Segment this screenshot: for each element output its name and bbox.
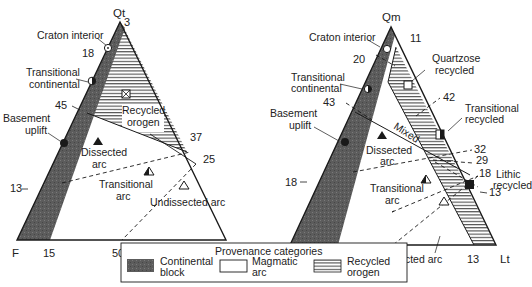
svg-text:block: block bbox=[160, 266, 185, 278]
label-craton-interior: Craton interior bbox=[37, 29, 104, 41]
tick-13: 13 bbox=[10, 182, 22, 194]
undissected-arc-marker bbox=[439, 197, 449, 205]
transitional-continental-marker bbox=[364, 85, 371, 92]
tick-11: 11 bbox=[410, 32, 421, 44]
label-recycled-orogen: Recycled bbox=[122, 104, 165, 116]
transitional-recycled-marker bbox=[436, 130, 444, 139]
label-craton-interior: Craton interior bbox=[309, 31, 376, 43]
label-quartzose-recycled-2: recycled bbox=[435, 64, 474, 76]
basement-uplift-marker bbox=[341, 138, 349, 146]
label-basement-uplift-2: uplift bbox=[25, 124, 47, 136]
tick-29: 29 bbox=[476, 154, 488, 166]
quartzose-recycled-marker bbox=[404, 81, 412, 89]
label-quartzose-recycled: Quartzose bbox=[432, 52, 481, 64]
label-basement-uplift: Basement bbox=[270, 107, 317, 119]
tick-25: 25 bbox=[203, 153, 215, 165]
label-lithic-recycled-2: recycled bbox=[493, 179, 532, 191]
dissected-arc-marker bbox=[377, 131, 387, 139]
label-dissected-arc-2: arc bbox=[92, 158, 107, 170]
label-transitional-continental: Transitional bbox=[26, 66, 80, 78]
label-recycled-orogen-2: orogen bbox=[127, 116, 160, 128]
apex-f: F bbox=[12, 247, 19, 259]
apex-lt: Lt bbox=[500, 253, 510, 265]
transitional-continental-marker bbox=[88, 77, 96, 85]
label-transitional-arc: Transitional bbox=[99, 178, 153, 190]
transitional-arc-marker bbox=[421, 175, 431, 183]
tick-3: 3 bbox=[124, 16, 130, 28]
undissected-arc-marker bbox=[179, 181, 189, 189]
svg-text:arc: arc bbox=[252, 266, 267, 278]
tick-42: 42 bbox=[443, 91, 455, 103]
tick-45: 45 bbox=[55, 99, 67, 111]
lithic-recycled-marker bbox=[465, 180, 474, 189]
label-transitional-continental-2: continental bbox=[29, 78, 80, 90]
recycled-orogen-marker bbox=[122, 90, 130, 98]
qtfl-diagram: Qt F L 3 18 45 13 37 25 15 50 Craton int… bbox=[3, 7, 231, 259]
qmflt-diagram: Qm F Lt 11 20 43 18 42 32 29 18 13 23 13… bbox=[270, 11, 532, 265]
legend: Provenance categories Continental block … bbox=[121, 243, 407, 282]
tick-18-right: 18 bbox=[479, 167, 491, 179]
label-dissected-arc-2: arc bbox=[380, 155, 395, 167]
tick-43: 43 bbox=[323, 96, 335, 108]
tick-13-base: 13 bbox=[467, 253, 479, 265]
label-transitional-arc: Transitional bbox=[370, 182, 424, 194]
label-transitional-arc-2: arc bbox=[385, 194, 400, 206]
tick-18-left: 18 bbox=[285, 176, 297, 188]
label-dissected-arc: Dissected bbox=[81, 146, 127, 158]
basement-uplift-marker bbox=[60, 139, 68, 147]
svg-text:orogen: orogen bbox=[347, 266, 380, 278]
apex-qm: Qm bbox=[382, 11, 401, 23]
tick-18: 18 bbox=[82, 47, 94, 59]
provenance-ternary-diagrams: Qt F L 3 18 45 13 37 25 15 50 Craton int… bbox=[0, 0, 532, 287]
tick-15: 15 bbox=[43, 247, 55, 259]
label-transitional-recycled-2: recycled bbox=[465, 113, 504, 125]
label-transitional-continental-2: continental bbox=[291, 82, 342, 94]
label-basement-uplift: Basement bbox=[3, 112, 50, 124]
label-basement-uplift-2: uplift bbox=[289, 119, 311, 131]
craton-interior-marker bbox=[383, 45, 390, 52]
dissected-arc-marker bbox=[93, 137, 103, 145]
transitional-arc-marker bbox=[144, 167, 154, 175]
label-transitional-arc-2: arc bbox=[116, 190, 131, 202]
tick-20: 20 bbox=[353, 53, 365, 65]
tick-37: 37 bbox=[190, 131, 202, 143]
label-undissected-arc: Undissected arc bbox=[150, 196, 225, 208]
